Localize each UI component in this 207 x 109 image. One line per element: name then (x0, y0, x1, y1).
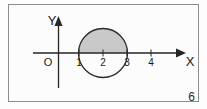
origin-label: O (44, 56, 53, 68)
x-tick-label-4: 4 (148, 57, 154, 68)
figure-number-label: 6 (188, 91, 195, 103)
x-tick-label-1: 1 (76, 57, 82, 68)
y-axis-label: Y (48, 13, 57, 28)
x-axis-arrow-icon (176, 49, 186, 58)
x-axis-label: X (186, 54, 195, 69)
x-tick-label-2: 2 (100, 57, 106, 68)
figure-container: 1 2 3 4 O X Y 6 (0, 0, 207, 109)
shaded-upper-half-disk (79, 28, 128, 53)
coordinate-plot: 1 2 3 4 O X Y (0, 0, 207, 109)
x-tick-label-3: 3 (124, 57, 130, 68)
